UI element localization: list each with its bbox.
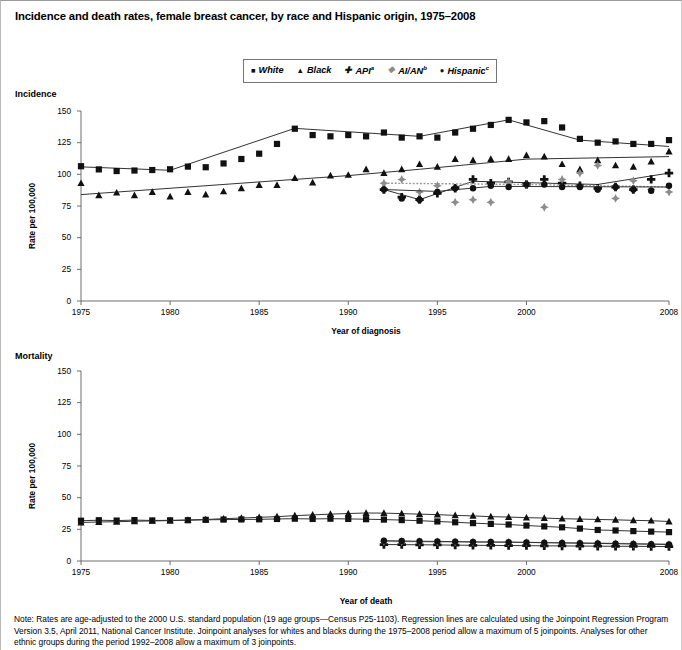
circle-data-point (595, 186, 601, 192)
y-tick-label: 125 (41, 137, 71, 147)
page-title: Incidence and death rates, female breast… (15, 10, 475, 22)
y-tick-label: 100 (41, 169, 71, 179)
incidence-panel-label: Incidence (15, 89, 57, 99)
x-tick-label: 1980 (150, 567, 190, 577)
circle-data-point (577, 540, 583, 546)
circle-data-point (505, 184, 511, 190)
square-data-point (274, 141, 280, 147)
y-tick-label: 150 (41, 366, 71, 376)
circle-data-point (630, 186, 636, 192)
square-data-point (363, 516, 369, 522)
circle-marker: ● (440, 67, 445, 75)
y-tick-label: 100 (41, 429, 71, 439)
mortality-x-axis-title: Year of death (266, 596, 466, 606)
y-tick-label: 50 (41, 232, 71, 242)
circle-data-point (470, 185, 476, 191)
circle-data-point (399, 538, 405, 544)
triangle-data-point (469, 157, 476, 164)
square-data-point (666, 529, 672, 535)
square-data-point (506, 521, 512, 527)
x-tick-label: 2008 (649, 567, 682, 577)
incidence-x-axis-title: Year of diagnosis (266, 326, 466, 336)
square-data-point (220, 160, 226, 166)
square-data-point (523, 522, 529, 528)
circle-data-point (488, 183, 494, 189)
triangle-data-point (291, 174, 298, 181)
square-data-point (470, 126, 476, 132)
diamond-data-point (397, 175, 406, 184)
circle-data-point (541, 181, 547, 187)
legend-label: White (259, 66, 284, 75)
circle-data-point (434, 538, 440, 544)
circle-data-point (595, 540, 601, 546)
square-data-point (203, 164, 209, 170)
square-data-point (595, 140, 601, 146)
x-tick-label: 2008 (649, 307, 682, 317)
square-data-point (630, 528, 636, 534)
diamond-data-point (469, 195, 478, 204)
plus-data-point (665, 169, 673, 177)
trend-line (81, 120, 669, 170)
x-tick-label: 1995 (417, 567, 457, 577)
mortality-chart (1, 361, 682, 586)
square-data-point (595, 527, 601, 533)
plus-marker: ✚ (344, 66, 352, 75)
triangle-data-point (398, 165, 405, 172)
figure-container: Incidence and death rates, female breast… (0, 0, 682, 650)
diamond-data-point (486, 198, 495, 207)
diamond-data-point (576, 169, 585, 178)
square-data-point (630, 141, 636, 147)
y-tick-label: 150 (41, 106, 71, 116)
circle-data-point (452, 538, 458, 544)
legend-label: AI/ANb (398, 65, 427, 76)
triangle-data-point (238, 184, 245, 191)
triangle-data-point (558, 160, 565, 167)
triangle-data-point (202, 191, 209, 198)
triangle-data-point (184, 188, 191, 195)
triangle-data-point (434, 163, 441, 170)
square-data-point (292, 126, 298, 132)
x-tick-label: 2000 (506, 567, 546, 577)
x-tick-label: 2000 (506, 307, 546, 317)
square-data-point (381, 129, 387, 135)
square-data-point (577, 136, 583, 142)
square-data-point (434, 518, 440, 524)
circle-data-point (666, 183, 672, 189)
triangle-data-point (665, 148, 672, 155)
circle-data-point (488, 539, 494, 545)
triangle-data-point (77, 179, 84, 186)
y-tick-label: 0 (41, 556, 71, 566)
x-tick-label: 1990 (328, 307, 368, 317)
circle-data-point (541, 539, 547, 545)
square-data-point (559, 124, 565, 130)
y-tick-label: 50 (41, 492, 71, 502)
triangle-data-point (523, 152, 530, 159)
triangle-data-point (273, 181, 280, 188)
square-data-point (559, 524, 565, 530)
circle-data-point (470, 539, 476, 545)
circle-data-point (630, 541, 636, 547)
legend-entry-api: ✚APIa (344, 65, 374, 76)
incidence-chart (1, 101, 682, 326)
x-tick-label: 1985 (239, 307, 279, 317)
square-data-point (577, 525, 583, 531)
diamond-data-point (611, 194, 620, 203)
y-tick-label: 25 (41, 264, 71, 274)
y-tick-label: 75 (41, 461, 71, 471)
circle-data-point (577, 184, 583, 190)
triangle-data-point (487, 155, 494, 162)
x-tick-label: 1985 (239, 567, 279, 577)
x-tick-label: 1990 (328, 567, 368, 577)
chart-legend: ■White▲Black✚APIa❖AI/ANb●Hispanicc (243, 59, 497, 83)
legend-entry-white: ■White (251, 66, 284, 75)
x-tick-label: 1975 (61, 307, 101, 317)
square-data-point (96, 166, 102, 172)
square-data-point (523, 119, 529, 125)
triangle-data-point (416, 160, 423, 167)
legend-footnote-marker: a (371, 65, 374, 71)
square-data-point (434, 135, 440, 141)
circle-data-point (523, 539, 529, 545)
x-tick-label: 1995 (417, 307, 457, 317)
legend-entry-black: ▲Black (297, 66, 332, 75)
circle-data-point (648, 541, 654, 547)
